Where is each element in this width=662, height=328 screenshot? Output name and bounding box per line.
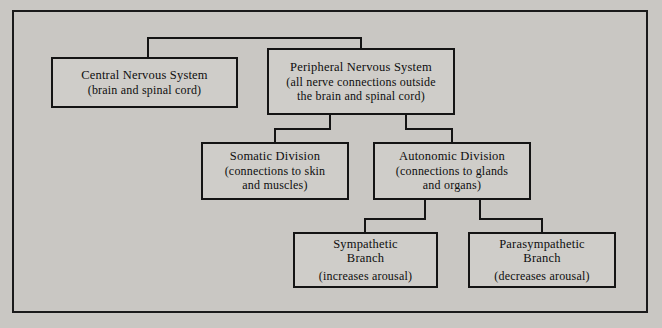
node-parasympathetic-branch[interactable]: Parasympathetic Branch (decreases arousa… [468, 232, 616, 288]
node-autonomic-division[interactable]: Autonomic Division (connections to gland… [373, 142, 531, 200]
node-somatic-division[interactable]: Somatic Division (connections to skin an… [201, 142, 349, 200]
node-title-line2: Branch [523, 251, 560, 266]
node-subtitle-line: (all nerve connections outside [286, 75, 436, 89]
node-subtitle-line: (connections to glands [396, 164, 508, 178]
node-subtitle-line: and organs) [396, 178, 508, 192]
diagram-canvas: Central Nervous System (brain and spinal… [0, 0, 662, 328]
node-title: Sympathetic [333, 237, 398, 252]
node-title: Peripheral Nervous System [290, 60, 432, 75]
node-title-line2: Branch [347, 251, 384, 266]
node-peripheral-nervous-system[interactable]: Peripheral Nervous System (all nerve con… [267, 48, 455, 115]
node-subtitle-line: (increases arousal) [319, 269, 412, 283]
node-title: Parasympathetic [499, 237, 585, 252]
node-title: Central Nervous System [81, 68, 208, 83]
node-sympathetic-branch[interactable]: Sympathetic Branch (increases arousal) [293, 232, 438, 288]
node-title: Somatic Division [230, 149, 320, 164]
node-subtitle: (connections to skin and muscles) [225, 164, 326, 192]
node-title: Autonomic Division [399, 149, 505, 164]
node-subtitle: (all nerve connections outside the brain… [286, 75, 436, 103]
node-central-nervous-system[interactable]: Central Nervous System (brain and spinal… [51, 57, 238, 108]
node-subtitle-line: (brain and spinal cord) [88, 83, 202, 97]
node-subtitle-line: (decreases arousal) [494, 269, 589, 283]
node-subtitle-line: the brain and spinal cord) [286, 89, 436, 103]
node-subtitle-line: (connections to skin [225, 164, 326, 178]
node-subtitle: (increases arousal) [319, 269, 412, 283]
node-subtitle: (decreases arousal) [494, 269, 589, 283]
node-subtitle: (brain and spinal cord) [88, 83, 202, 97]
node-subtitle-line: and muscles) [225, 178, 326, 192]
node-subtitle: (connections to glands and organs) [396, 164, 508, 192]
